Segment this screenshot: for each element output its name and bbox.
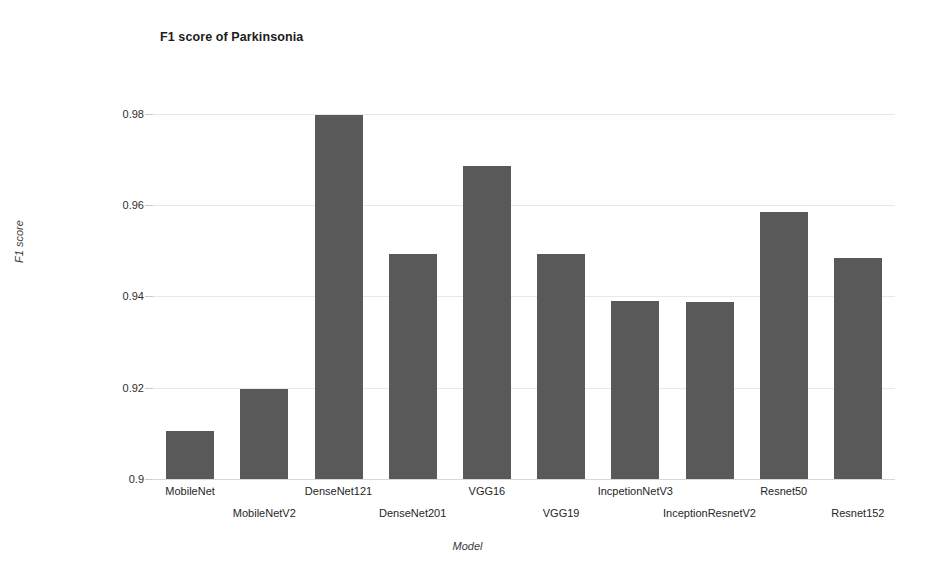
- y-axis-tick-label: 0.94: [123, 290, 144, 302]
- x-axis-tick-label: MobileNetV2: [233, 507, 296, 519]
- x-axis-tick-label: DenseNet121: [305, 485, 372, 497]
- y-axis-tick-label: 0.92: [123, 382, 144, 394]
- bar: [760, 212, 808, 479]
- y-axis-tick-mark: [145, 205, 153, 206]
- x-axis-tick-label: IncpetionNetV3: [598, 485, 673, 497]
- plot-area: 0.90.920.940.960.98: [153, 68, 895, 479]
- bar: [315, 115, 363, 479]
- bar: [463, 166, 511, 479]
- bar: [240, 389, 288, 479]
- x-axis-tick-label: VGG16: [469, 485, 506, 497]
- bar: [611, 301, 659, 479]
- x-axis-tick-label: MobileNet: [165, 485, 215, 497]
- bar: [834, 258, 882, 479]
- bar: [537, 254, 585, 479]
- bar: [686, 302, 734, 479]
- gridline: 0.96: [153, 205, 895, 206]
- x-axis-title: Model: [0, 540, 935, 552]
- y-axis-tick-mark: [145, 388, 153, 389]
- chart-figure: F1 score of Parkinsonia F1 score 0.90.92…: [0, 0, 935, 570]
- bar: [389, 254, 437, 479]
- y-axis-tick-mark: [145, 479, 153, 480]
- chart-title: F1 score of Parkinsonia: [160, 30, 303, 44]
- x-axis-tick-label: DenseNet201: [379, 507, 446, 519]
- y-axis-tick-label: 0.9: [129, 473, 144, 485]
- bar: [166, 431, 214, 479]
- x-axis-tick-label: Resnet152: [831, 507, 884, 519]
- y-axis-tick-mark: [145, 114, 153, 115]
- gridline: 0.9: [153, 479, 895, 480]
- x-axis-tick-label: Resnet50: [760, 485, 807, 497]
- y-axis-tick-label: 0.98: [123, 108, 144, 120]
- y-axis-tick-label: 0.96: [123, 199, 144, 211]
- y-axis-tick-mark: [145, 296, 153, 297]
- gridline: 0.98: [153, 114, 895, 115]
- y-axis-title: F1 score: [13, 220, 25, 263]
- x-axis-tick-label: InceptionResnetV2: [663, 507, 756, 519]
- x-axis-tick-label: VGG19: [543, 507, 580, 519]
